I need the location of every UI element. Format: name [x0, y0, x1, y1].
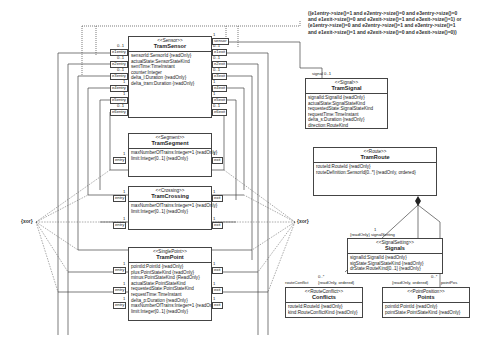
multiplicity: 1: [213, 297, 215, 302]
class-tram-crossing[interactable]: <<Crossing>> TramCrossing maxNumberOfTra…: [128, 186, 212, 230]
multiplicity: 0..1: [117, 68, 124, 73]
class-name: Conflicts: [286, 294, 362, 301]
class-header: <<Segment>> TramSegment: [129, 134, 211, 149]
class-tram-signal[interactable]: <<Signal>> TramSignal signalId:SignalId …: [305, 78, 388, 129]
xor-label-left: {xor}: [21, 218, 33, 224]
multiplicity: 0..1: [213, 56, 220, 61]
attribute-list: pointId:PointId {readOnly} plus:PointSta…: [129, 263, 211, 315]
attribute-list: signalId:SignalId {readOnly} sigState:Si…: [348, 254, 442, 273]
composition-diamond: [415, 196, 421, 206]
port-exit: exit: [212, 222, 223, 229]
multiplicity: 0..1: [117, 44, 124, 49]
port-exit: exit: [212, 302, 223, 309]
port-entry: entry: [113, 267, 126, 274]
port-exit: exit: [212, 287, 223, 294]
attribute-list: sensorId:SensorId {readOnly} actualState…: [129, 52, 211, 88]
class-name: Points: [383, 294, 469, 301]
class-name: TramSignal: [306, 85, 387, 92]
class-signals[interactable]: <<SignalSetting>> Signals signalId:Signa…: [347, 238, 443, 274]
class-header: <<Sensor>> TramSensor: [129, 37, 211, 52]
attribute: delta_tram:Duration {readOnly}: [131, 81, 209, 87]
multiplicity: 1: [123, 217, 125, 222]
attribute-list: maxNumberOfTrains:Integer=1 {readOnly} l…: [129, 149, 211, 162]
multiplicity: 1: [123, 152, 125, 157]
multiplicity: 1: [123, 297, 125, 302]
attribute: limit:Integer[0..1] {readOnly}: [131, 309, 209, 315]
attribute: direction:RouteKind: [308, 123, 385, 129]
attribute: maxNumberOfTrains:Integer=1 {readOnly}: [131, 203, 209, 209]
class-name: TramSegment: [129, 140, 211, 147]
association-role-signal-setting: {readOnly} signalSetting: [350, 233, 395, 238]
class-header: <<Signal>> TramSignal: [306, 79, 387, 94]
port-entry: entry: [113, 157, 126, 164]
class-name: TramPoint: [129, 254, 211, 261]
attribute-list: routeId:RouteId {readOnly} kind:RouteCon…: [286, 303, 362, 316]
class-header: <<SignalSetting>> Signals: [348, 239, 442, 254]
xor-label-right: {xor}: [297, 218, 309, 224]
class-header: <<SinglePoint>> TramPoint: [129, 248, 211, 263]
class-header: <<RouteConflict>> Conflicts: [286, 288, 362, 303]
port-exit: exit: [212, 157, 223, 164]
multiplicity: 1: [213, 262, 215, 267]
multiplicity: 0..1: [213, 68, 220, 73]
multiplicity: 1: [213, 190, 215, 195]
multiplicity: 1: [123, 282, 125, 287]
multiplicity: 0..1: [213, 44, 220, 49]
class-header: <<PointPosition>> Points: [383, 288, 469, 303]
class-name: Signals: [348, 245, 442, 252]
class-name: TramSensor: [129, 43, 211, 50]
port-e3entry: e3entry: [110, 73, 128, 80]
multiplicity: 1: [213, 282, 215, 287]
association-role-signal: signal 0..1: [312, 72, 331, 77]
class-header: <<Route>> TramRoute: [314, 148, 436, 163]
port-entry: entry: [113, 222, 126, 229]
class-header: <<Crossing>> TramCrossing: [129, 187, 211, 202]
attribute: kind:RouteConflictKind {readOnly}: [288, 310, 360, 316]
association-props: {readOnly, ordered}: [318, 281, 354, 286]
class-name: TramCrossing: [129, 193, 211, 200]
port-entry: entry: [113, 302, 126, 309]
multiplicity: 1: [213, 152, 215, 157]
association-role-point-pos: pointPos: [441, 281, 457, 286]
class-points[interactable]: <<PointPosition>> Points pointId:PointId…: [382, 287, 470, 318]
attribute-list: signalId:SignalId {readOnly} actualState…: [306, 94, 387, 130]
association-role-route-conflict: routeConflict: [285, 281, 309, 286]
multiplicity: 1: [123, 262, 125, 267]
multiplicity: 0..1: [117, 104, 124, 109]
port-entry: entry: [113, 195, 126, 202]
port-e4entry: e4entry: [110, 85, 128, 92]
multiplicity: 0..1: [117, 56, 124, 61]
multiplicity: 1: [213, 80, 215, 85]
class-tram-segment[interactable]: <<Segment>> TramSegment maxNumberOfTrain…: [128, 133, 212, 177]
port-exit: exit: [212, 267, 223, 274]
constraint-line: and e1exit->size()=1 and e2exit->size()=…: [308, 29, 488, 35]
class-tram-point[interactable]: <<SinglePoint>> TramPoint pointId:PointI…: [128, 247, 212, 321]
class-conflicts[interactable]: <<RouteConflict>> Conflicts routeId:Rout…: [285, 287, 363, 318]
attribute: maxNumberOfTrains:Integer=1 {readOnly}: [131, 150, 209, 156]
multiplicity: 1: [213, 33, 215, 38]
multiplicity: 0..*: [431, 275, 437, 280]
class-tram-route[interactable]: <<Route>> TramRoute routeId:RouteId {rea…: [313, 147, 437, 196]
attribute: minus:PointStateKind {ReadOnly}: [131, 275, 209, 281]
multiplicity: 1: [213, 217, 215, 222]
multiplicity: 1: [123, 92, 125, 97]
attribute: limit:Integer[0..1] {readOnly}: [131, 209, 209, 215]
attribute: drState:RouteKind[0..1] {readOnly}: [350, 266, 440, 272]
ocl-constraint: ((e1entry->size()=1 and e2entry->size()=…: [308, 10, 488, 35]
port-e6entry: e6entry: [110, 109, 128, 116]
multiplicity: 1: [123, 80, 125, 85]
port-entry: entry: [113, 287, 126, 294]
port-exit: exit: [212, 195, 223, 202]
attribute: pointState:PointStateKind {readOnly}: [385, 310, 467, 316]
class-name: TramRoute: [314, 154, 436, 161]
multiplicity: 0..*: [318, 275, 324, 280]
multiplicity: 0..1: [213, 104, 220, 109]
multiplicity: 1: [213, 92, 215, 97]
attribute: limit:Integer[0..1] {readOnly}: [131, 156, 209, 162]
attribute-list: maxNumberOfTrains:Integer=1 {readOnly} l…: [129, 202, 211, 215]
attribute: maxNumberOfTrains:Integer=1 {readOnly}: [131, 303, 209, 309]
attribute: routeDefinition:SensorId[0..*] {readOnly…: [316, 170, 434, 176]
class-tram-sensor[interactable]: <<Sensor>> TramSensor sensorId:SensorId …: [128, 36, 212, 118]
multiplicity: 1: [123, 190, 125, 195]
port-e6exit: e6exit: [212, 109, 227, 116]
